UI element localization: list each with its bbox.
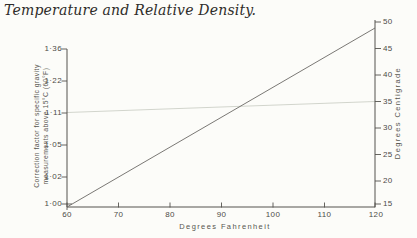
x-tick-label: 90 bbox=[207, 210, 237, 220]
x-tick-label: 100 bbox=[258, 210, 288, 220]
y-tick-label-right: 15 bbox=[383, 199, 393, 209]
y-tick-label-left: 1·22 bbox=[36, 76, 62, 86]
conversion-line bbox=[67, 28, 375, 207]
x-tick-label: 70 bbox=[104, 210, 134, 220]
right-y-axis-ticks bbox=[375, 22, 381, 204]
left-y-axis-title-line1: Correction factor for specific gravity bbox=[33, 64, 40, 188]
y-tick-label-left: 1·11 bbox=[36, 108, 62, 118]
y-tick-label-right: 25 bbox=[383, 150, 393, 160]
x-tick-label: 110 bbox=[310, 210, 340, 220]
y-tick-label-right: 40 bbox=[383, 70, 393, 80]
plot-canvas bbox=[0, 0, 417, 238]
x-tick-label: 80 bbox=[155, 210, 185, 220]
y-tick-label-right: 50 bbox=[383, 17, 393, 27]
x-axis-title: Degrees Fahrenheit bbox=[179, 222, 271, 231]
x-tick-label: 60 bbox=[52, 210, 82, 220]
x-axis-ticks bbox=[67, 203, 375, 211]
left-y-axis-title-line2: measurements above 15°C (60°F) bbox=[42, 68, 49, 185]
scanned-chart-page: Temperature and Relative Density. bbox=[0, 0, 417, 238]
y-tick-label-left: 1·05 bbox=[36, 140, 62, 150]
y-tick-label-right: 20 bbox=[383, 176, 393, 186]
faint-reference-rule-line bbox=[67, 102, 375, 113]
y-tick-label-right: 45 bbox=[383, 44, 393, 54]
y-tick-label-left: 1·36 bbox=[36, 44, 62, 54]
y-tick-label-left: 1·02 bbox=[36, 172, 62, 182]
y-tick-label-right: 35 bbox=[383, 97, 393, 107]
x-tick-label: 120 bbox=[361, 210, 391, 220]
y-tick-label-right: 30 bbox=[383, 123, 393, 133]
y-tick-label-left: 1·00 bbox=[36, 199, 62, 209]
right-y-axis-title: Degrees Centigrade bbox=[393, 67, 402, 159]
